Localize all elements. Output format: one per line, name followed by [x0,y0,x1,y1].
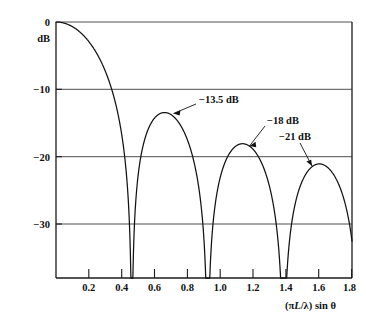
y-axis-unit-label: dB [37,33,50,44]
y-tick-label-minus20: −20 [34,152,50,163]
annotation-3-label: −21 dB [279,131,311,142]
x-tick-label-0.4: 0.4 [115,282,129,293]
aperture-pattern-chart: 0.2 0.4 0.6 0.8 1.0 1.2 1.4 1.6 1.8 0 dB… [0,0,366,323]
annotation-2-label: −18 dB [267,115,299,126]
x-axis-title-L: L [293,300,300,311]
x-axis-title: (πL/λ) sin θ [285,300,336,312]
x-axis-title-theta: θ [330,300,336,311]
x-tick-label-0.8: 0.8 [181,282,194,293]
x-tick-label-0.6: 0.6 [148,282,161,293]
chart-figure: 0.2 0.4 0.6 0.8 1.0 1.2 1.4 1.6 1.8 0 dB… [0,0,366,323]
x-axis-title-suffix: ) sin [309,300,331,312]
x-tick-label-1.0: 1.0 [214,282,227,293]
y-tick-label-minus10: −10 [34,84,50,95]
x-tick-label-1.2: 1.2 [246,282,259,293]
x-tick-label-1.6: 1.6 [312,282,325,293]
y-tick-label-0: 0 [45,17,50,28]
x-tick-label-1.8: 1.8 [343,282,356,293]
x-tick-label-0.2: 0.2 [82,282,95,293]
y-tick-label-minus30: −30 [34,219,50,230]
annotation-1-label: −13.5 dB [199,94,239,105]
x-tick-label-1.4: 1.4 [279,282,293,293]
